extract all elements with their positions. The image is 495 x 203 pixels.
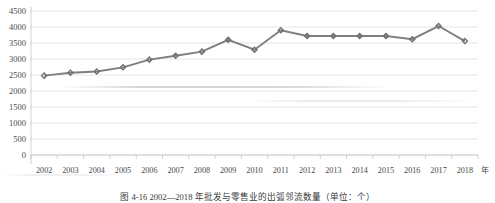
x-axis-tick-label: 2014: [351, 166, 367, 175]
scan-artifact-lower: [248, 100, 478, 102]
y-axis-tick-label: 0: [22, 150, 26, 160]
y-axis-tick-label: 3500: [9, 38, 26, 48]
x-axis-tick-label: 2010: [246, 166, 262, 175]
scan-artifact-left: [0, 174, 130, 176]
scan-artifact-upper: [60, 86, 390, 88]
x-axis-tick-label: 2012: [299, 166, 315, 175]
y-axis-tick-label: 500: [13, 134, 26, 144]
x-axis-tick-label: 2016: [404, 166, 420, 175]
figure-container: 0500100015002000250030003500400045002002…: [0, 0, 495, 203]
x-axis-tick-label: 2009: [220, 166, 236, 175]
data-point-marker: [42, 73, 47, 78]
x-axis-tick-label: 2011: [273, 166, 289, 175]
y-axis-tick-label: 2000: [9, 86, 26, 96]
x-axis-tick-label: 2017: [430, 166, 446, 175]
y-axis-tick-label: 3000: [9, 54, 26, 64]
x-axis-tick-label: 2008: [194, 166, 210, 175]
x-axis-unit-label: 年: [481, 165, 489, 175]
x-axis-tick-label: 2013: [325, 166, 341, 175]
x-axis-tick-label: 2007: [167, 166, 183, 175]
x-axis-tick-label: 2015: [378, 166, 394, 175]
y-axis-tick-label: 1000: [9, 118, 26, 128]
x-axis-tick-label: 2018: [457, 166, 473, 175]
figure-caption: 图 4-16 2002—2018 年批发与零售业的出弧邻流数量（单位：个）: [0, 192, 495, 203]
y-axis-tick-label: 4000: [9, 22, 26, 32]
x-axis-tick-label: 2006: [141, 166, 157, 175]
y-axis-tick-label: 4500: [9, 6, 26, 16]
data-line-出弧邻流数量: [44, 26, 465, 76]
y-axis-tick-label: 1500: [9, 102, 26, 112]
y-axis-tick-label: 2500: [9, 70, 26, 80]
